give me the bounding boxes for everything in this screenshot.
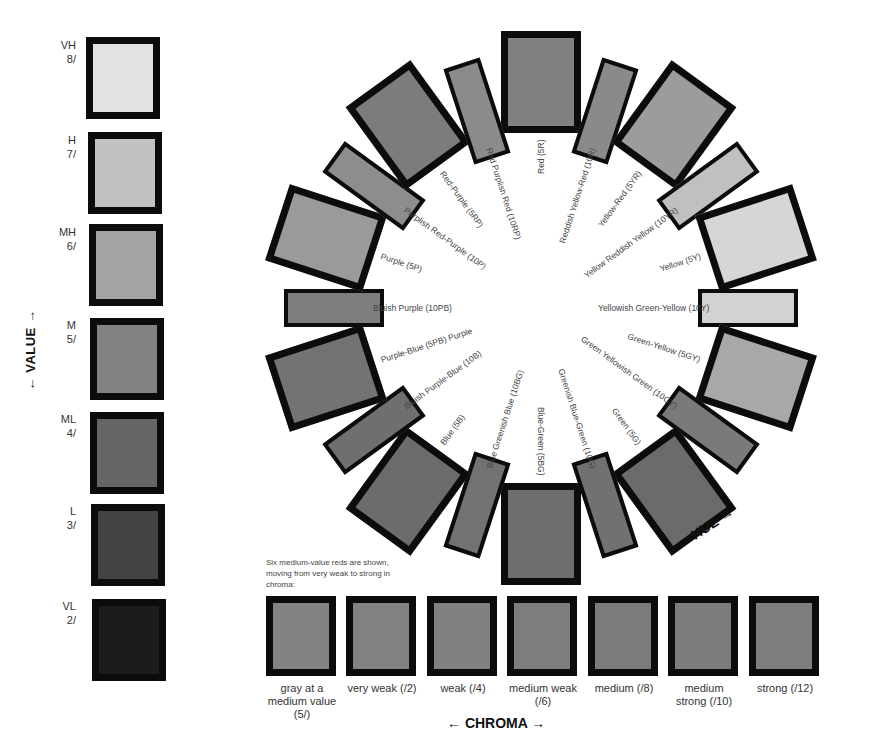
chroma-swatch [427,596,497,676]
chroma-note: Six medium-value reds are shown, moving … [266,557,406,590]
hue-label: Purple (5P) [380,251,424,274]
chroma-item: medium weak (/6) [507,596,579,708]
chroma-axis-label: ← CHROMA → [447,715,545,731]
hue-label: Reddish Yellow-Red (10R) [557,147,597,245]
hue-swatch [698,289,798,327]
chroma-caption: medium weak (/6) [507,682,579,708]
chroma-caption: strong (/12) [749,682,821,695]
arrow-right-icon: → [531,715,545,731]
chroma-caption: weak (/4) [427,682,499,695]
chroma-swatch [588,596,658,676]
hue-label: Bluish Purple (10PB) [373,303,452,313]
hue-label: Red-Purple (5RP) [438,169,486,230]
chroma-caption: medium strong (/10) [668,682,740,708]
chroma-swatch [668,596,738,676]
chroma-swatch [266,596,336,676]
hue-label: Purple-Blue (5PB) Purple [380,326,474,365]
hue-label: Blue Greenish Blue (10BG) [484,368,525,469]
hue-label: Green (5G) [610,406,643,447]
hue-label: Green-Yellow (5GY) [627,332,702,365]
chroma-item: very weak (/2) [346,596,418,695]
chroma-item: medium (/8) [588,596,660,695]
hue-label: Yellow (5Y) [658,251,702,274]
chroma-swatch [749,596,819,676]
hue-swatch [501,31,581,133]
chroma-caption: medium (/8) [588,682,660,695]
chroma-item: weak (/4) [427,596,499,695]
hue-label: Blue (5B) [438,412,467,447]
chroma-caption: very weak (/2) [346,682,418,695]
chroma-item: medium strong (/10) [668,596,740,708]
hue-label: Blue-Green (5BG) [536,407,546,476]
hue-label: Red Purplish Red (10RP) [484,147,523,241]
hue-label: Bluish Purple-Blue (10B) [402,348,483,411]
hue-swatch [501,483,581,585]
hue-label: Yellowish Green-Yellow (10Y) [598,303,709,313]
chroma-axis-text: CHROMA [465,715,527,731]
chroma-swatch [346,596,416,676]
chroma-caption: gray at a medium value (5/) [266,682,338,721]
chroma-item: gray at a medium value (5/) [266,596,338,721]
chroma-item: strong (/12) [749,596,821,695]
hue-swatch [284,289,384,327]
chroma-swatch [507,596,577,676]
arrow-left-icon: ← [447,715,461,731]
hue-label: Yellow-Red (5YR) [596,169,644,229]
hue-label: Greenish Blue-Green (10G) [556,367,598,469]
hue-label: Red (5R) [536,140,546,174]
